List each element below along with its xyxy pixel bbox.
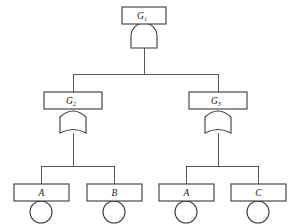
basic-event-circle-icon	[103, 201, 125, 223]
node-g1[interactable]: G1	[122, 7, 166, 48]
fault-tree-canvas: G1 G2 G3 A B A	[0, 0, 289, 224]
basic-event-a-right[interactable]: A	[159, 184, 214, 223]
basic-event-label: A	[183, 188, 190, 198]
and-gate-g1-icon	[131, 23, 157, 48]
basic-event-circle-icon	[175, 201, 197, 223]
node-g2[interactable]: G2	[44, 92, 102, 133]
basic-event-circle-icon	[247, 201, 269, 223]
basic-event-b[interactable]: B	[87, 184, 142, 223]
basic-event-circle-icon	[30, 201, 52, 223]
basic-event-label: B	[112, 188, 118, 198]
fault-tree-diagram: G1 G2 G3 A B A	[0, 0, 289, 224]
basic-event-a-left[interactable]: A	[14, 184, 69, 223]
basic-event-label: A	[38, 188, 45, 198]
basic-event-label: C	[255, 188, 262, 198]
or-gate-g2-icon	[60, 111, 86, 133]
node-g3[interactable]: G3	[189, 92, 247, 133]
basic-event-c[interactable]: C	[231, 184, 286, 223]
or-gate-g3-icon	[205, 111, 231, 133]
